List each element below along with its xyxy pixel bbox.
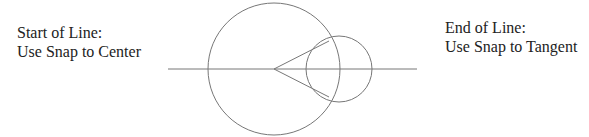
tangent-line-upper bbox=[274, 41, 329, 69]
tangent-diagram bbox=[0, 0, 589, 137]
tangent-line-lower bbox=[274, 69, 329, 97]
